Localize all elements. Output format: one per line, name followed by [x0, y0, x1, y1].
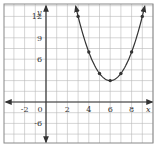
y-axis-label: y — [36, 8, 42, 17]
grid-lines — [4, 4, 153, 143]
x-axis-label: x — [146, 105, 151, 114]
graph-canvas: -202468-66912xy — [0, 0, 159, 148]
parabola-graph: -202468-66912xy — [0, 0, 159, 148]
x-tick-label: 4 — [86, 105, 91, 114]
data-point — [109, 79, 112, 82]
y-tick-label: 9 — [37, 34, 42, 43]
x-tick-label: 2 — [65, 105, 70, 114]
data-point — [141, 15, 144, 18]
y-tick-label: -6 — [34, 119, 42, 128]
x-tick-label: 6 — [108, 105, 113, 114]
data-point — [119, 72, 122, 75]
x-tick-label: 0 — [37, 105, 42, 114]
x-tick-label: -2 — [21, 105, 29, 114]
axes — [6, 6, 152, 142]
data-point — [98, 72, 101, 75]
x-tick-label: 8 — [129, 105, 134, 114]
data-point — [130, 50, 133, 53]
data-point — [76, 15, 79, 18]
y-tick-label: 6 — [37, 55, 42, 64]
plot-frame — [4, 4, 153, 143]
data-point — [87, 50, 90, 53]
